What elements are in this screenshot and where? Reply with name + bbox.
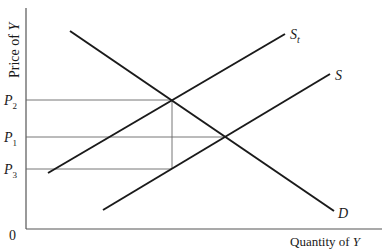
price-label-p3: P3	[3, 162, 18, 180]
demand-curve	[70, 31, 334, 211]
x-axis-label: Quantity of Y	[290, 234, 362, 249]
supply-label: S	[335, 68, 342, 83]
supply-demand-diagram: St S D P2 P1 P3 0 Price of Y Quantity of…	[0, 0, 382, 252]
price-label-p2: P2	[3, 93, 17, 111]
supply-tax-label: St	[290, 27, 300, 45]
supply-curve	[103, 74, 330, 210]
price-label-p1: P1	[3, 130, 17, 148]
demand-label: D	[337, 206, 348, 221]
origin-label: 0	[9, 228, 16, 243]
y-axis-label: Price of Y	[7, 21, 22, 78]
